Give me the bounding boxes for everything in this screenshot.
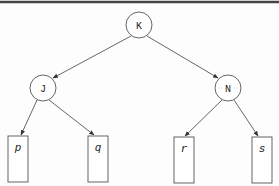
leaf-s-label: s — [259, 143, 266, 155]
tree-diagram-canvas: K J N p q r s — [0, 0, 279, 186]
tree-diagram: K J N p q r s — [0, 0, 279, 186]
edge-n-s — [234, 100, 258, 136]
leaf-p: p — [8, 136, 28, 182]
node-j: J — [30, 75, 56, 101]
node-n: N — [215, 75, 241, 101]
node-k-label: K — [136, 21, 142, 32]
node-k: K — [126, 12, 152, 38]
leaf-q: q — [88, 136, 108, 182]
node-n-label: N — [225, 84, 231, 95]
edge-j-q — [49, 100, 94, 135]
leaf-r: r — [174, 137, 194, 183]
edge-n-r — [185, 100, 222, 136]
node-j-label: J — [40, 84, 46, 95]
edge-j-p — [21, 100, 37, 135]
leaf-r-label: r — [181, 143, 188, 155]
edge-k-n — [147, 36, 218, 78]
leaf-q-label: q — [95, 142, 102, 154]
leaf-p-label: p — [14, 142, 22, 154]
edge-k-j — [53, 36, 131, 78]
leaf-s: s — [252, 137, 272, 183]
